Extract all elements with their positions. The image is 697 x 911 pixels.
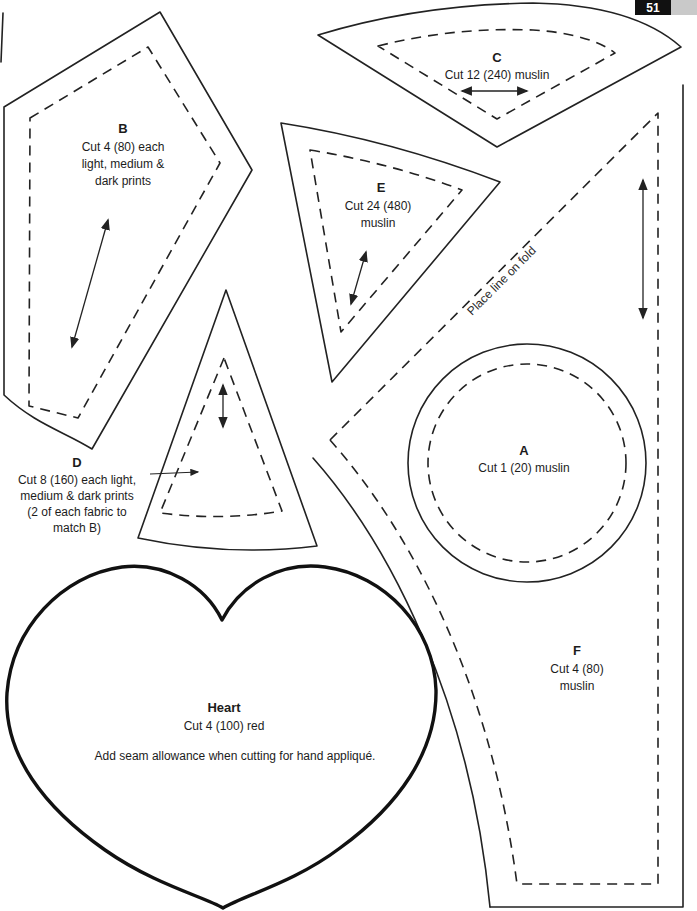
template-d-cutline (138, 290, 317, 550)
template-f-text: Cut 4 (80) (550, 662, 603, 676)
corner-strip (671, 0, 697, 15)
template-f-letter: F (573, 643, 581, 658)
template-b-text: dark prints (95, 174, 151, 188)
template-d-letter: D (72, 455, 81, 470)
template-b: B Cut 4 (80) each light, medium & dark p… (4, 12, 252, 449)
template-f-seamline-curve (330, 440, 517, 884)
template-a-text: Cut 1 (20) muslin (478, 461, 569, 475)
template-c-text: Cut 12 (240) muslin (445, 68, 550, 82)
label-leader-arrow-icon-d (150, 472, 198, 474)
template-heart-name: Heart (207, 700, 241, 715)
template-d: D Cut 8 (160) each light, medium & dark … (18, 290, 317, 550)
page-number-badge: 51 (635, 0, 697, 15)
template-heart-cutline (7, 566, 436, 908)
template-c: C Cut 12 (240) muslin (318, 3, 681, 147)
template-c-letter: C (492, 50, 502, 65)
template-b-text: light, medium & (82, 157, 165, 171)
template-e-cutline (281, 123, 500, 382)
template-f-cutline-right-bottom (490, 85, 683, 907)
template-f-text: muslin (560, 679, 595, 693)
template-e-seamline (310, 150, 462, 332)
fold-line-note: Place line on fold (464, 244, 539, 319)
template-b-seamline (29, 47, 220, 418)
pattern-sheet: B Cut 4 (80) each light, medium & dark p… (0, 0, 697, 911)
template-d-text: Cut 8 (160) each light, (18, 473, 136, 487)
template-heart-note: Add seam allowance when cutting for hand… (95, 749, 376, 763)
template-e-text: Cut 24 (480) (345, 199, 412, 213)
template-f-cutline-curve (313, 458, 490, 907)
pattern-page: B Cut 4 (80) each light, medium & dark p… (0, 0, 697, 911)
page-edge-fragment (1, 13, 3, 62)
template-d-seamline (160, 358, 282, 517)
template-d-text: match B) (53, 521, 101, 535)
template-d-text: medium & dark prints (20, 489, 133, 503)
template-e: E Cut 24 (480) muslin (281, 123, 500, 382)
template-b-cutline (4, 12, 252, 449)
template-e-text: muslin (361, 216, 396, 230)
grain-arrow-icon-e (351, 252, 366, 304)
template-a-letter: A (519, 443, 529, 458)
page-number: 51 (646, 1, 660, 15)
template-d-text: (2 of each fabric to (27, 505, 127, 519)
template-a: A Cut 1 (20) muslin (408, 344, 646, 582)
template-heart: Heart Cut 4 (100) red Add seam allowance… (7, 566, 436, 908)
template-b-text: Cut 4 (80) each (82, 140, 165, 154)
template-b-letter: B (118, 121, 127, 136)
template-e-letter: E (377, 180, 386, 195)
grain-arrow-icon-b (72, 220, 108, 347)
template-heart-text: Cut 4 (100) red (184, 719, 265, 733)
